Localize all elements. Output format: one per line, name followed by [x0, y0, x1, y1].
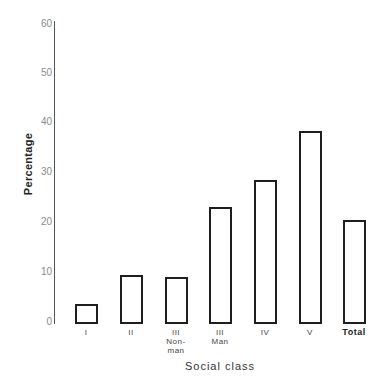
x-axis-title: Social class — [170, 360, 270, 372]
x-tick-label: III Non- man — [154, 328, 198, 355]
bar — [343, 220, 366, 324]
bar — [75, 304, 98, 324]
bar-chart: 0 10 20 30 40 50 60 Percentage I II III … — [0, 0, 386, 387]
y-tick-label: 10 — [32, 267, 52, 277]
x-tick-label: IV — [243, 328, 287, 337]
bar — [299, 131, 322, 324]
y-tick-label: 30 — [32, 167, 52, 177]
x-tick-label: II — [109, 328, 153, 337]
bar — [120, 275, 143, 324]
x-tick-label: V — [288, 328, 332, 337]
y-tick-label: 20 — [32, 217, 52, 227]
y-axis-line — [54, 21, 55, 324]
y-axis-title: Percentage — [22, 124, 34, 204]
y-tick-label: 50 — [32, 68, 52, 78]
bar — [165, 277, 188, 324]
x-tick-label: Total — [332, 328, 376, 337]
bar — [209, 207, 232, 324]
x-tick-label: I — [64, 328, 108, 337]
bar — [254, 180, 277, 324]
y-tick-label: 0 — [32, 317, 52, 327]
y-tick-label: 60 — [32, 19, 52, 29]
x-tick-label: III Man — [198, 328, 242, 346]
y-tick-label: 40 — [32, 117, 52, 127]
